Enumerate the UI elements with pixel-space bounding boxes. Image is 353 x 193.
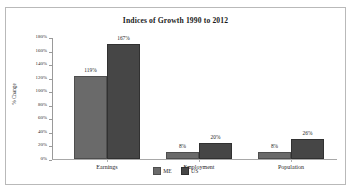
bar-group-bars: 119% 167% <box>61 37 153 159</box>
y-tick-label: 120% <box>36 75 47 80</box>
y-tick-label: 20% <box>38 142 47 147</box>
x-axis-line <box>52 159 337 160</box>
y-tick-mark <box>49 160 52 161</box>
chart-container: Indices of Growth 1990 to 2012 % Change … <box>5 7 346 185</box>
y-tick-mark <box>49 79 52 80</box>
y-tick-label: 140% <box>36 61 47 66</box>
y-axis-title: % Change <box>11 83 17 104</box>
chart-legend: ME US <box>6 167 345 175</box>
y-tick-mark <box>49 106 52 107</box>
bar-value-label: 20% <box>211 134 221 140</box>
bar-value-label: 8% <box>271 143 278 149</box>
legend-label-me: ME <box>163 168 171 174</box>
bar-value-label: 8% <box>179 143 186 149</box>
y-tick-label: 100% <box>36 88 47 93</box>
y-tick-label: 80% <box>38 102 47 107</box>
bar-value-label: 167% <box>117 35 130 41</box>
y-tick-mark <box>49 65 52 66</box>
bar-value-label: 119% <box>84 67 96 73</box>
bar-group-population: 8% 26% Population <box>245 37 337 159</box>
y-tick-mark <box>49 119 52 120</box>
x-tick-mark <box>199 159 200 162</box>
y-axis-line <box>52 38 53 160</box>
y-tick-mark <box>49 133 52 134</box>
y-tick-label: 180% <box>36 34 47 39</box>
bar-group-earnings: 119% 167% Earnings <box>61 37 153 159</box>
bar-value-label: 26% <box>303 130 313 136</box>
legend-item-me[interactable]: ME <box>153 167 172 175</box>
legend-label-us: US <box>191 168 198 174</box>
y-tick-label: 60% <box>38 115 47 120</box>
bar-us-employment[interactable]: 20% <box>199 143 232 159</box>
x-tick-mark <box>291 159 292 162</box>
x-tick-mark <box>107 159 108 162</box>
y-tick-mark <box>49 52 52 53</box>
y-tick-mark <box>49 146 52 147</box>
legend-swatch-icon <box>181 167 189 175</box>
legend-item-us[interactable]: US <box>181 167 199 175</box>
bar-group-employment: 8% 20% Employment <box>153 37 245 159</box>
y-tick-label: 160% <box>36 48 47 53</box>
bar-me-population[interactable]: 8% <box>258 152 291 159</box>
bar-group-bars: 8% 20% <box>153 37 245 159</box>
bar-group-bars: 8% 26% <box>245 37 337 159</box>
chart-title: Indices of Growth 1990 to 2012 <box>6 16 345 25</box>
y-tick-label: 0% <box>40 156 47 161</box>
bar-us-earnings[interactable]: 167% <box>107 44 140 159</box>
y-tick-label: 40% <box>38 129 47 134</box>
y-tick-mark <box>49 92 52 93</box>
plot-area: 180% 160% 140% 120% 100% 80% 60% 40% 20%… <box>52 38 337 160</box>
y-tick-mark <box>49 38 52 39</box>
bar-me-employment[interactable]: 8% <box>166 152 199 159</box>
legend-swatch-icon <box>153 167 161 175</box>
bar-me-earnings[interactable]: 119% <box>74 76 107 159</box>
bar-us-population[interactable]: 26% <box>291 139 324 159</box>
